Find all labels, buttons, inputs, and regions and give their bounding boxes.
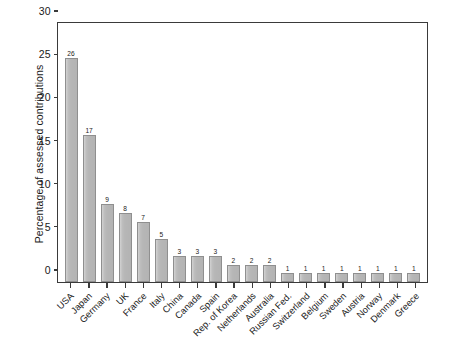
bar-value-label: 1 bbox=[304, 265, 308, 272]
x-axis-tick-mark bbox=[342, 283, 343, 288]
bar-value-label: 2 bbox=[232, 257, 236, 264]
bar-value-label: 1 bbox=[412, 265, 416, 272]
x-axis-tick-mark bbox=[70, 283, 71, 288]
y-axis-tick: 10 bbox=[39, 178, 58, 190]
bar[interactable]: 1 bbox=[281, 273, 294, 282]
y-axis-tick-label: 0 bbox=[45, 264, 54, 276]
bar-slot: 1 bbox=[333, 23, 351, 282]
x-axis-tick-mark bbox=[233, 283, 234, 288]
x-axis-tick-mark bbox=[125, 283, 126, 288]
x-axis-tick-mark bbox=[161, 283, 162, 288]
bar-slot: 2 bbox=[224, 23, 242, 282]
y-axis-tick-label: 10 bbox=[39, 178, 54, 190]
y-axis-tick-mark bbox=[54, 10, 59, 11]
bar[interactable]: 8 bbox=[119, 213, 132, 282]
x-axis-tick-mark bbox=[197, 283, 198, 288]
bar[interactable]: 1 bbox=[407, 273, 420, 282]
y-axis-tick: 25 bbox=[39, 48, 58, 60]
bar-slot: 3 bbox=[206, 23, 224, 282]
bar-value-label: 17 bbox=[85, 127, 92, 134]
bar-slot: 8 bbox=[116, 23, 134, 282]
x-axis-label-slot: Sweden bbox=[333, 288, 351, 362]
bar-slot: 7 bbox=[134, 23, 152, 282]
x-axis-label-slot: Italy bbox=[152, 288, 170, 362]
y-axis-tick-label: 20 bbox=[39, 91, 54, 103]
y-axis-tick: 5 bbox=[45, 221, 58, 233]
bar-value-label: 1 bbox=[394, 265, 398, 272]
bar-value-label: 2 bbox=[268, 257, 272, 264]
y-axis-tick-label: 30 bbox=[39, 5, 54, 17]
bar-value-label: 3 bbox=[177, 248, 181, 255]
bar[interactable]: 2 bbox=[227, 265, 240, 282]
x-axis-label-slot: USA bbox=[61, 288, 79, 362]
bar-value-label: 1 bbox=[358, 265, 362, 272]
x-axis-label-slot: Greece bbox=[406, 288, 424, 362]
bar-slot: 3 bbox=[188, 23, 206, 282]
x-axis-label-slot: Switzerland bbox=[297, 288, 315, 362]
x-axis-tick-mark bbox=[179, 283, 180, 288]
bar-slot: 1 bbox=[405, 23, 423, 282]
bar-value-label: 8 bbox=[123, 205, 127, 212]
y-axis-tick-label: 25 bbox=[39, 48, 54, 60]
x-axis-tick-mark bbox=[88, 283, 89, 288]
x-axis-tick-mark bbox=[252, 283, 253, 288]
bar-slot: 1 bbox=[369, 23, 387, 282]
y-axis-tick-label: 15 bbox=[39, 135, 54, 147]
x-axis-label-slot: France bbox=[134, 288, 152, 362]
x-axis-tick-mark bbox=[361, 283, 362, 288]
bar-slot: 5 bbox=[152, 23, 170, 282]
bar[interactable]: 26 bbox=[65, 58, 78, 282]
bar[interactable]: 1 bbox=[371, 273, 384, 282]
bar[interactable]: 1 bbox=[317, 273, 330, 282]
bar-slot: 2 bbox=[242, 23, 260, 282]
bar[interactable]: 1 bbox=[299, 273, 312, 282]
x-axis-label-slot: China bbox=[170, 288, 188, 362]
bar-slot: 1 bbox=[387, 23, 405, 282]
bar-value-label: 7 bbox=[141, 214, 145, 221]
bar-value-label: 9 bbox=[105, 196, 109, 203]
bar-chart-figure: Percentage of assessed contributions 051… bbox=[0, 0, 461, 362]
x-axis-tick-mark bbox=[270, 283, 271, 288]
bar-slot: 17 bbox=[80, 23, 98, 282]
x-axis-tick-mark bbox=[379, 283, 380, 288]
bar-value-label: 26 bbox=[67, 50, 74, 57]
bar-slot: 9 bbox=[98, 23, 116, 282]
bar-slot: 1 bbox=[297, 23, 315, 282]
bar[interactable]: 17 bbox=[83, 135, 96, 282]
bar[interactable]: 7 bbox=[137, 222, 150, 282]
bar[interactable]: 5 bbox=[155, 239, 168, 282]
bar[interactable]: 2 bbox=[245, 265, 258, 282]
bar[interactable]: 1 bbox=[353, 273, 366, 282]
bar-slot: 1 bbox=[351, 23, 369, 282]
x-axis-tick-mark bbox=[324, 283, 325, 288]
bar-value-label: 3 bbox=[214, 248, 218, 255]
bar-slot: 3 bbox=[170, 23, 188, 282]
bar[interactable]: 3 bbox=[191, 256, 204, 282]
bar[interactable]: 1 bbox=[335, 273, 348, 282]
x-axis-label-slot: UK bbox=[115, 288, 133, 362]
bar[interactable]: 3 bbox=[173, 256, 186, 282]
y-axis-tick: 30 bbox=[39, 5, 58, 17]
x-axis-tick-mark bbox=[215, 283, 216, 288]
y-axis-tick: 20 bbox=[39, 91, 58, 103]
bar-slot: 26 bbox=[62, 23, 80, 282]
x-axis-tick-mark bbox=[143, 283, 144, 288]
bar[interactable]: 2 bbox=[263, 265, 276, 282]
bar[interactable]: 1 bbox=[389, 273, 402, 282]
bar-value-label: 1 bbox=[322, 265, 326, 272]
bar-slot: 1 bbox=[279, 23, 297, 282]
bar-value-label: 3 bbox=[196, 248, 200, 255]
bar-value-label: 1 bbox=[340, 265, 344, 272]
x-axis-tick-mark bbox=[415, 283, 416, 288]
bar[interactable]: 3 bbox=[209, 256, 222, 282]
y-axis-tick: 0 bbox=[45, 264, 58, 276]
bar[interactable]: 9 bbox=[101, 204, 114, 282]
bar-slot: 1 bbox=[315, 23, 333, 282]
x-axis-label-slot: Belgium bbox=[315, 288, 333, 362]
bar-value-label: 2 bbox=[250, 257, 254, 264]
x-axis-label-slot: Denmark bbox=[388, 288, 406, 362]
bar-value-label: 1 bbox=[286, 265, 290, 272]
x-axis-label-slot: Germany bbox=[97, 288, 115, 362]
x-axis-tick-mark bbox=[106, 283, 107, 288]
x-axis-tick-mark bbox=[306, 283, 307, 288]
